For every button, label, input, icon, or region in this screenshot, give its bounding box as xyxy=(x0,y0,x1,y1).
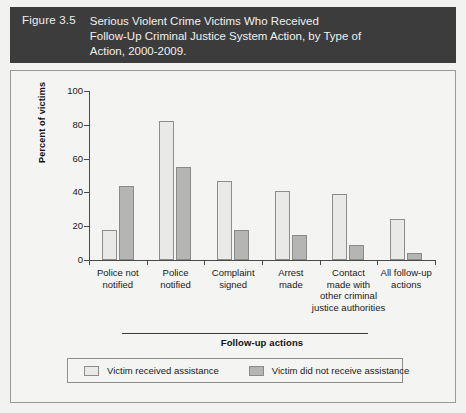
bar-group xyxy=(89,91,147,260)
bar-series-container xyxy=(89,91,435,260)
chart-legend: Victim received assistance Victim did no… xyxy=(67,358,403,383)
bar xyxy=(159,121,174,260)
figure-title-line-2: Follow-Up Criminal Justice System Action… xyxy=(90,29,361,44)
bar xyxy=(390,219,405,260)
bar xyxy=(275,191,290,260)
figure-title-line-1: Serious Violent Crime Victims Who Receiv… xyxy=(90,14,361,29)
legend-swatch-icon-light xyxy=(84,366,99,376)
bar xyxy=(119,186,134,260)
legend-swatch-icon-dark xyxy=(249,366,264,376)
bar-group xyxy=(320,91,378,260)
x-tick xyxy=(262,260,263,265)
x-tick xyxy=(320,260,321,265)
x-tick xyxy=(89,260,90,265)
figure-title-line-3: Action, 2000-2009. xyxy=(90,44,361,59)
x-axis-label-line: justice authorities xyxy=(282,302,415,314)
x-axis-label-line: other criminal xyxy=(282,290,415,302)
figure-number: Figure 3.5 xyxy=(22,14,76,26)
x-axis-label-line: actions xyxy=(340,279,466,291)
x-axis-category-labels: Police notnotifiedPolicenotifiedComplain… xyxy=(89,267,435,329)
x-tick xyxy=(435,260,436,265)
bar xyxy=(176,167,191,260)
bar xyxy=(217,181,232,260)
legend-item-not-received-assistance: Victim did not receive assistance xyxy=(249,365,410,376)
y-tick-label-100: 100 xyxy=(43,85,83,96)
figure-title-banner: Figure 3.5 Serious Violent Crime Victims… xyxy=(10,7,456,63)
legend-item-received-assistance: Victim received assistance xyxy=(84,365,219,376)
y-tick-label-20: 20 xyxy=(43,220,83,231)
group-bracket-line xyxy=(122,333,368,334)
legend-label-received-assistance: Victim received assistance xyxy=(107,365,219,376)
y-tick-label-80: 80 xyxy=(43,119,83,130)
bar-group xyxy=(262,91,320,260)
y-tick-label-40: 40 xyxy=(43,186,83,197)
bar xyxy=(407,253,422,260)
x-tick xyxy=(147,260,148,265)
chart-panel: Percent of victims 020406080100 Police n… xyxy=(10,70,456,403)
bar xyxy=(102,230,117,260)
bar xyxy=(349,245,364,260)
legend-label-not-received-assistance: Victim did not receive assistance xyxy=(272,365,410,376)
bar-group xyxy=(377,91,435,260)
plot-area: 020406080100 xyxy=(89,91,435,260)
bar xyxy=(292,235,307,260)
bar-group xyxy=(204,91,262,260)
x-tick xyxy=(204,260,205,265)
bar-group xyxy=(147,91,205,260)
x-axis-group-title: Follow-up actions xyxy=(89,337,435,348)
x-axis-label-line: All follow-up xyxy=(340,267,466,279)
x-axis-label: All follow-upactions xyxy=(340,267,466,290)
y-tick-label-60: 60 xyxy=(43,153,83,164)
figure-container: Figure 3.5 Serious Violent Crime Victims… xyxy=(0,0,466,413)
bar xyxy=(332,194,347,260)
bar xyxy=(234,230,249,260)
x-tick xyxy=(377,260,378,265)
figure-title: Serious Violent Crime Victims Who Receiv… xyxy=(90,14,361,59)
y-tick-label-0: 0 xyxy=(43,254,83,265)
